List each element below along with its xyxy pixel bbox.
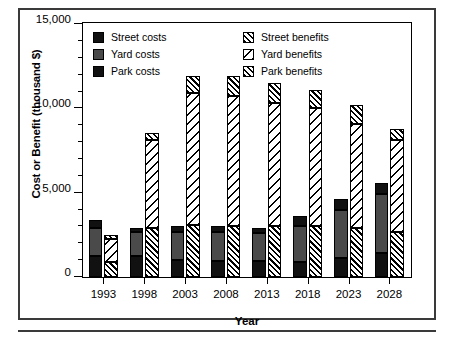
x-tick-label: 2018 — [295, 288, 321, 300]
bar-segment-park-costs — [375, 183, 389, 194]
y-tick-minor — [78, 225, 83, 226]
x-tick — [185, 277, 186, 284]
solid-black-square-icon — [93, 32, 104, 43]
bar-segment-yard-benefits — [104, 239, 118, 262]
bar-segment-park-costs — [130, 228, 144, 232]
plot-inner: 05,00010,00015,000 199319982003200820132… — [83, 23, 411, 277]
bar-segment-yard-costs — [89, 228, 103, 256]
bar-benefit-2023 — [350, 105, 364, 277]
bar-segment-yard-benefits — [350, 124, 364, 228]
y-tick-label: 0 — [65, 266, 71, 278]
x-tick-label: 2003 — [172, 288, 198, 300]
bar-benefit-2013 — [268, 83, 282, 277]
y-tick-minor — [78, 242, 83, 243]
dense-forward-hatch-square-icon — [243, 32, 254, 43]
x-tick — [267, 277, 268, 284]
y-tick-major — [74, 192, 83, 193]
legend-item-street-benefits: Street benefits — [243, 30, 403, 44]
bar-benefit-2028 — [390, 129, 404, 277]
y-tick-minor — [78, 91, 83, 92]
bar-segment-street-costs — [375, 253, 389, 277]
bar-segment-street-costs — [211, 261, 225, 277]
x-tick-label: 2028 — [377, 288, 403, 300]
y-tick-label: 10,000 — [36, 97, 71, 109]
bar-cost-2023 — [334, 199, 348, 277]
y-tick-major — [74, 107, 83, 108]
bar-segment-park-costs — [171, 226, 185, 231]
y-tick-minor — [78, 175, 83, 176]
bar-segment-yard-costs — [211, 232, 225, 261]
y-tick-minor — [78, 40, 83, 41]
bar-segment-yard-benefits — [145, 140, 159, 228]
bar-segment-yard-benefits — [227, 96, 241, 226]
bar-segment-street-costs — [89, 256, 103, 277]
dense-forward-hatch-square-icon — [243, 66, 254, 77]
x-tick — [144, 277, 145, 284]
bar-cost-2003 — [171, 226, 185, 277]
bar-segment-park-benefits — [145, 133, 159, 140]
bar-segment-park-benefits — [390, 129, 404, 140]
bar-segment-street-costs — [130, 256, 144, 277]
bar-cost-2028 — [375, 183, 389, 277]
bar-benefit-1998 — [145, 133, 159, 277]
x-tick-label: 2013 — [254, 288, 280, 300]
x-tick — [349, 277, 350, 284]
bar-segment-street-benefits — [145, 228, 159, 277]
bar-segment-street-benefits — [390, 232, 404, 278]
legend-item-yard-costs: Yard costs — [93, 47, 243, 61]
y-tick-label: 5,000 — [42, 182, 71, 194]
y-tick-label: 15,000 — [36, 13, 71, 25]
legend-label: Yard benefits — [261, 49, 322, 60]
x-tick — [389, 277, 390, 284]
bar-segment-yard-costs — [171, 232, 185, 261]
y-tick-minor — [78, 259, 83, 260]
bar-segment-street-benefits — [350, 228, 364, 277]
bar-segment-street-costs — [171, 260, 185, 277]
plot-area: 05,00010,00015,000 199319982003200820132… — [82, 22, 412, 278]
bar-chart-figure: Cost or Benefit (thousand $) 05,00010,00… — [0, 0, 454, 353]
bar-segment-park-benefits — [186, 76, 200, 93]
bar-segment-park-benefits — [268, 83, 282, 102]
x-tick-label: 1998 — [131, 288, 157, 300]
legend-label: Park benefits — [261, 66, 322, 77]
bar-segment-yard-costs — [375, 194, 389, 254]
legend-column-costs: Street costsYard costsPark costs — [93, 30, 243, 78]
legend-item-street-costs: Street costs — [93, 30, 243, 44]
y-tick-minor — [78, 158, 83, 159]
bar-segment-park-benefits — [350, 105, 364, 124]
bar-segment-yard-costs — [130, 232, 144, 256]
legend-label: Park costs — [111, 66, 160, 77]
x-tick — [308, 277, 309, 284]
bar-cost-1998 — [130, 228, 144, 277]
bar-segment-park-costs — [211, 226, 225, 231]
bar-segment-park-benefits — [104, 235, 118, 239]
y-tick-major — [74, 276, 83, 277]
chart-legend: Street costsYard costsPark costs Street … — [93, 30, 405, 78]
solid-gray-square-icon — [93, 49, 104, 60]
x-tick-label: 2023 — [336, 288, 362, 300]
bar-segment-street-costs — [293, 262, 307, 277]
bar-segment-yard-benefits — [186, 93, 200, 224]
bar-cost-2013 — [252, 228, 266, 277]
y-axis-title: Cost or Benefit (thousand $) — [30, 24, 42, 224]
y-tick-minor — [78, 209, 83, 210]
legend-label: Yard costs — [111, 49, 160, 60]
bar-cost-2008 — [211, 226, 225, 277]
y-tick-minor — [78, 57, 83, 58]
legend-label: Street costs — [111, 32, 166, 43]
bar-segment-yard-benefits — [390, 140, 404, 232]
bar-benefit-1993 — [104, 235, 118, 277]
legend-column-benefits: Street benefitsYard benefitsPark benefit… — [243, 30, 403, 78]
bar-segment-yard-costs — [293, 226, 307, 261]
legend-item-park-benefits: Park benefits — [243, 64, 403, 78]
x-tick-label: 1993 — [91, 288, 117, 300]
sparse-back-hatch-square-icon — [243, 49, 254, 60]
bar-segment-park-benefits — [227, 76, 241, 96]
bar-segment-street-benefits — [227, 226, 241, 277]
legend-item-park-costs: Park costs — [93, 64, 243, 78]
y-tick-minor — [78, 141, 83, 142]
bar-segment-street-benefits — [309, 226, 323, 277]
bar-segment-park-costs — [293, 216, 307, 226]
bar-segment-park-costs — [252, 228, 266, 233]
bar-segment-yard-benefits — [268, 103, 282, 227]
